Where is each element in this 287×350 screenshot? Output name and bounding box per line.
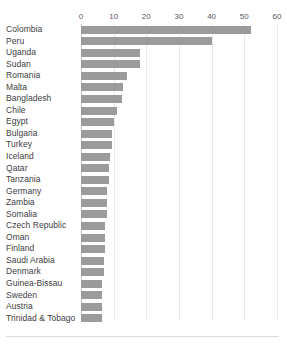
bar-track xyxy=(81,70,287,82)
bar-row: Uganda xyxy=(0,47,287,59)
bar xyxy=(81,257,104,265)
bar-row: Qatar xyxy=(0,163,287,175)
bar-track xyxy=(81,59,287,71)
bar-track xyxy=(81,82,287,94)
bar-track xyxy=(81,36,287,48)
bar-row: Sudan xyxy=(0,59,287,71)
bar-row: Somalia xyxy=(0,209,287,221)
category-label: Bulgaria xyxy=(6,128,38,140)
bar-track xyxy=(81,232,287,244)
category-label: Czech Republic xyxy=(6,220,66,232)
bar-track xyxy=(81,93,287,105)
bar-track xyxy=(81,197,287,209)
bar-track xyxy=(81,24,287,36)
bar xyxy=(81,199,107,207)
bar-rows: ColombiaPeruUgandaSudanRomaniaMaltaBangl… xyxy=(0,24,287,324)
category-label: Denmark xyxy=(6,266,41,278)
category-label: Colombia xyxy=(6,24,42,36)
bar xyxy=(81,26,251,34)
bar-track xyxy=(81,151,287,163)
bar-row: Sweden xyxy=(0,290,287,302)
bar xyxy=(81,303,102,311)
bar-track xyxy=(81,139,287,151)
category-label: Zambia xyxy=(6,197,35,209)
category-label: Peru xyxy=(6,36,24,48)
category-label: Romania xyxy=(6,70,40,82)
category-label: Malta xyxy=(6,82,27,94)
category-label: Qatar xyxy=(6,163,28,175)
bar-row: Zambia xyxy=(0,197,287,209)
bar-track xyxy=(81,278,287,290)
x-tick-label-10: 10 xyxy=(109,12,118,22)
category-label: Iceland xyxy=(6,151,34,163)
category-label: Guinea-Bissau xyxy=(6,278,62,290)
category-label: Chile xyxy=(6,105,26,117)
x-tick-label-40: 40 xyxy=(207,12,216,22)
category-label: Egypt xyxy=(6,116,28,128)
bar-track xyxy=(81,174,287,186)
bar-row: Chile xyxy=(0,105,287,117)
bar xyxy=(81,314,102,322)
x-tick-label-30: 30 xyxy=(174,12,183,22)
bar-chart: 0102030405060 ColombiaPeruUgandaSudanRom… xyxy=(0,0,287,350)
x-tick-label-0: 0 xyxy=(79,12,83,22)
bar-track xyxy=(81,186,287,198)
bar-row: Finland xyxy=(0,243,287,255)
bar-row: Romania xyxy=(0,70,287,82)
bar-row: Saudi Arabia xyxy=(0,255,287,267)
bar-row: Malta xyxy=(0,82,287,94)
bar-row: Bulgaria xyxy=(0,128,287,140)
category-label: Somalia xyxy=(6,209,37,221)
x-axis-tick-labels: 0102030405060 xyxy=(0,12,287,24)
bar-row: Bangladesh xyxy=(0,93,287,105)
bar-row: Peru xyxy=(0,36,287,48)
bar xyxy=(81,153,110,161)
bar-track xyxy=(81,266,287,278)
category-label: Bangladesh xyxy=(6,93,51,105)
bar xyxy=(81,83,123,91)
bar-row: Colombia xyxy=(0,24,287,36)
category-label: Saudi Arabia xyxy=(6,255,55,267)
bar xyxy=(81,268,104,276)
bar xyxy=(81,280,102,288)
x-tick-label-50: 50 xyxy=(240,12,249,22)
bar-row: Czech Republic xyxy=(0,220,287,232)
bar xyxy=(81,176,109,184)
bar xyxy=(81,60,140,68)
category-label: Trinidad & Tobago xyxy=(6,313,75,325)
category-label: Germany xyxy=(6,186,41,198)
bar xyxy=(81,245,105,253)
bar-track xyxy=(81,128,287,140)
x-tick-label-60: 60 xyxy=(272,12,281,22)
bar xyxy=(81,118,114,126)
category-label: Uganda xyxy=(6,47,36,59)
bar-row: Turkey xyxy=(0,139,287,151)
category-label: Turkey xyxy=(6,139,32,151)
bar-row: Germany xyxy=(0,186,287,198)
bar-track xyxy=(81,163,287,175)
bar xyxy=(81,164,109,172)
bar xyxy=(81,72,127,80)
category-label: Austria xyxy=(6,301,33,313)
bar-track xyxy=(81,290,287,302)
bar-row: Iceland xyxy=(0,151,287,163)
category-label: Sweden xyxy=(6,290,37,302)
bar-track xyxy=(81,255,287,267)
bar xyxy=(81,37,212,45)
chart-title-clipped xyxy=(6,0,206,8)
bar-track xyxy=(81,220,287,232)
bar xyxy=(81,49,140,57)
bar-row: Tanzania xyxy=(0,174,287,186)
bar xyxy=(81,234,105,242)
bar-row: Denmark xyxy=(0,266,287,278)
bar-track xyxy=(81,209,287,221)
bar xyxy=(81,291,102,299)
category-label: Tanzania xyxy=(6,174,40,186)
x-tick-label-20: 20 xyxy=(142,12,151,22)
bar xyxy=(81,210,107,218)
bar-track xyxy=(81,243,287,255)
bar-row: Egypt xyxy=(0,116,287,128)
bar-track xyxy=(81,301,287,313)
bar-row: Oman xyxy=(0,232,287,244)
bar-row: Trinidad & Tobago xyxy=(0,313,287,325)
